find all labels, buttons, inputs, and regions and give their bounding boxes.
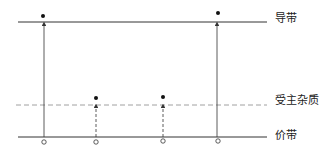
electron-dot bbox=[94, 96, 98, 100]
electron-dot bbox=[216, 11, 220, 15]
electron-dot bbox=[161, 95, 165, 99]
hole-circle bbox=[94, 140, 98, 144]
electron-dot bbox=[41, 14, 45, 18]
valence-band-label: 价带 bbox=[275, 130, 297, 142]
hole-circle bbox=[216, 139, 220, 143]
acceptor-level-label: 受主杂质 bbox=[275, 95, 319, 107]
conduction-band-label: 导带 bbox=[275, 13, 297, 25]
hole-circle bbox=[42, 140, 46, 144]
hole-circle bbox=[161, 139, 165, 143]
